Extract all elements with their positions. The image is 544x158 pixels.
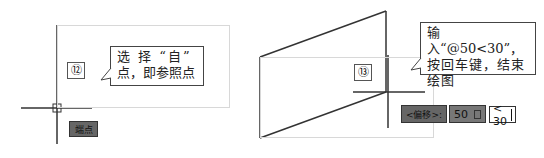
osnap-tooltip-endpoint: 端点 — [69, 121, 98, 137]
callout-text-line2: 按回车键，结束 — [427, 57, 529, 73]
instruction-callout-right: 输入“@50<30”， 按回车键，结束 绘图 — [420, 22, 536, 75]
step-badge-12: ⑫ — [67, 62, 85, 79]
callout-text-line2: 点，即参照点 — [117, 65, 197, 81]
text-cursor — [511, 109, 512, 121]
step-badge-13: ⑬ — [354, 64, 372, 81]
angle-input[interactable]: < 30 — [489, 106, 516, 123]
callout-text-line1: 输入“@50<30”， — [427, 25, 529, 57]
instruction-callout-left: 选 择 “自” 点，即参照点 — [110, 46, 204, 86]
callout-text-line1: 选 择 “自” — [117, 49, 197, 65]
callout-text-line3: 绘图 — [427, 73, 529, 89]
lock-icon[interactable] — [474, 110, 481, 119]
selection-frame-right — [260, 57, 434, 138]
distance-input[interactable]: 50 — [449, 105, 486, 123]
distance-value: 50 — [454, 108, 468, 121]
angle-value: < 30 — [493, 102, 511, 128]
dynamic-input-offset-label: <偏移>: — [401, 105, 447, 123]
